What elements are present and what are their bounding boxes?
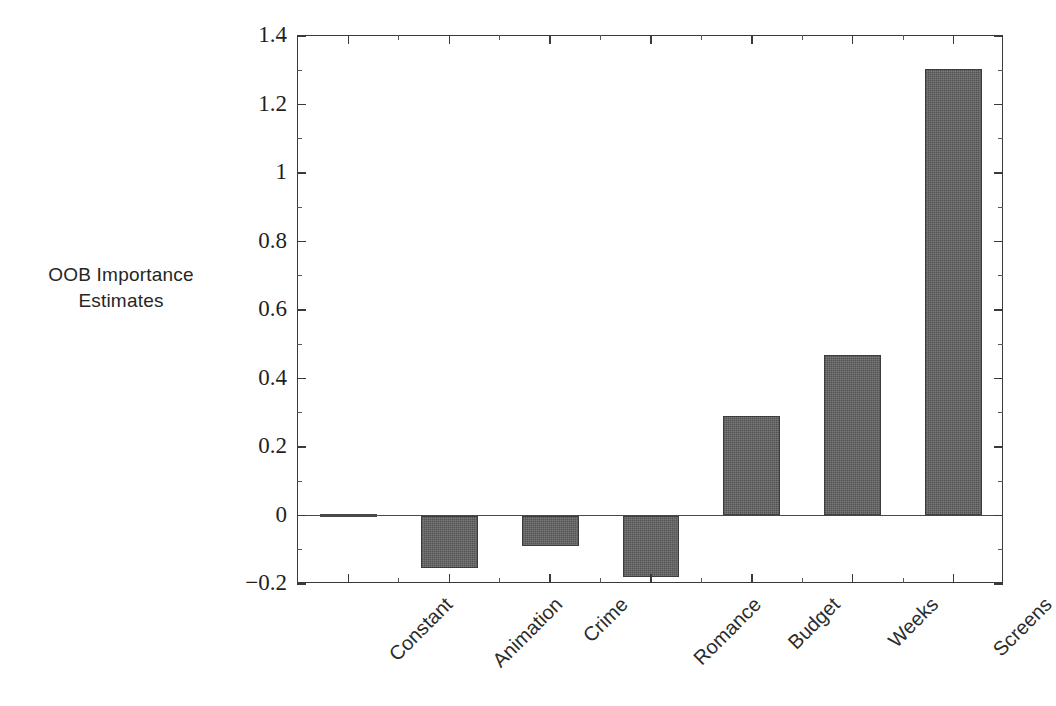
x-tick-minor xyxy=(903,35,904,40)
x-tick-major xyxy=(953,574,955,583)
y-tick-minor xyxy=(297,549,302,550)
y-tick-label-2: 1 xyxy=(276,160,288,183)
x-tick-minor xyxy=(499,35,500,40)
y-tick-major xyxy=(297,172,306,174)
y-tick-minor xyxy=(297,275,302,276)
y-tick-major xyxy=(297,104,306,106)
bar-weeks[interactable] xyxy=(824,355,881,516)
x-tick-major xyxy=(650,35,652,44)
y-tick-minor xyxy=(297,138,302,139)
y-tick-minor xyxy=(297,70,302,71)
y-axis-label-line-2: Estimates xyxy=(10,288,232,314)
x-tick-major xyxy=(348,574,350,583)
x-axis-tick-labels: ConstantAnimationCrimeRomanceBudgetWeeks… xyxy=(297,583,1003,703)
x-tick-minor xyxy=(600,35,601,40)
x-tick-minor xyxy=(802,35,803,40)
y-tick-minor xyxy=(998,275,1003,276)
y-tick-label-5: 0.4 xyxy=(258,366,287,389)
y-tick-major xyxy=(994,446,1003,448)
y-tick-major xyxy=(994,35,1003,37)
y-tick-minor xyxy=(998,549,1003,550)
y-tick-major xyxy=(994,378,1003,380)
y-tick-major xyxy=(297,309,306,311)
y-tick-label-7: 0 xyxy=(276,503,288,526)
x-tick-minor xyxy=(398,35,399,40)
x-tick-major xyxy=(852,35,854,44)
y-tick-minor xyxy=(998,138,1003,139)
x-tick-major xyxy=(953,35,955,44)
x-tick-major xyxy=(751,574,753,583)
y-tick-minor xyxy=(297,207,302,208)
x-tick-major xyxy=(751,35,753,44)
x-tick-label-animation: Animation xyxy=(488,593,566,671)
x-tick-major xyxy=(650,574,652,583)
y-tick-minor xyxy=(297,481,302,482)
x-tick-label-constant: Constant xyxy=(385,593,457,665)
bar-constant[interactable] xyxy=(320,514,377,516)
x-tick-label-screens: Screens xyxy=(988,593,1055,660)
bar-crime[interactable] xyxy=(522,516,579,547)
y-tick-label-4: 0.6 xyxy=(258,297,287,320)
y-tick-label-3: 0.8 xyxy=(258,229,287,252)
y-tick-label-6: 0.2 xyxy=(258,434,287,457)
bar-screens[interactable] xyxy=(925,69,982,516)
bar-romance[interactable] xyxy=(623,516,680,578)
y-tick-major xyxy=(994,172,1003,174)
x-tick-major xyxy=(449,35,451,44)
y-tick-major xyxy=(297,515,306,517)
plot-area xyxy=(297,35,1003,583)
y-tick-major xyxy=(297,241,306,243)
x-tick-major xyxy=(449,574,451,583)
plot-inner xyxy=(298,36,1002,582)
y-tick-minor xyxy=(998,207,1003,208)
y-tick-minor xyxy=(297,344,302,345)
x-tick-major xyxy=(852,574,854,583)
y-tick-major xyxy=(994,241,1003,243)
y-tick-major xyxy=(297,446,306,448)
y-axis-label-line-1: OOB Importance xyxy=(10,262,232,288)
y-axis-label: OOB Importance Estimates xyxy=(10,262,232,314)
y-tick-major xyxy=(994,104,1003,106)
x-tick-minor xyxy=(701,35,702,40)
y-tick-minor xyxy=(998,481,1003,482)
x-tick-label-crime: Crime xyxy=(579,593,632,646)
y-tick-major xyxy=(994,309,1003,311)
bar-budget[interactable] xyxy=(723,416,780,515)
y-tick-minor xyxy=(998,70,1003,71)
x-tick-label-weeks: Weeks xyxy=(884,593,943,652)
y-tick-label-1: 1.2 xyxy=(258,92,287,115)
x-tick-label-romance: Romance xyxy=(689,593,765,669)
y-tick-major xyxy=(994,515,1003,517)
y-tick-label-0: 1.4 xyxy=(258,23,287,46)
x-tick-major xyxy=(348,35,350,44)
bar-animation[interactable] xyxy=(421,516,478,568)
x-tick-major xyxy=(549,35,551,44)
x-tick-major xyxy=(549,574,551,583)
y-tick-major xyxy=(297,378,306,380)
y-tick-label-8: −0.2 xyxy=(245,571,287,594)
x-tick-label-budget: Budget xyxy=(783,593,843,653)
y-axis-tick-labels: 1.41.210.80.60.40.20−0.2 xyxy=(225,35,287,583)
y-tick-minor xyxy=(998,412,1003,413)
y-tick-minor xyxy=(297,412,302,413)
y-tick-minor xyxy=(998,344,1003,345)
y-tick-major xyxy=(297,35,306,37)
